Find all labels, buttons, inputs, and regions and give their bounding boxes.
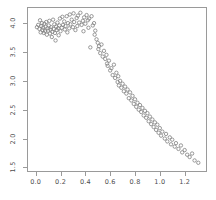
- y-tick-mark: [23, 81, 27, 82]
- x-tick-mark: [135, 172, 136, 176]
- y-tick-mark: [23, 139, 27, 140]
- data-point: [102, 49, 105, 52]
- data-point: [156, 123, 159, 126]
- data-point: [99, 51, 102, 54]
- data-points-layer: [27, 7, 207, 172]
- y-tick-label: 2.0: [9, 132, 17, 146]
- data-point: [130, 99, 133, 102]
- data-point: [174, 141, 177, 144]
- data-point: [107, 59, 110, 62]
- data-point: [51, 18, 54, 21]
- x-tick-label: 1.2: [179, 178, 190, 186]
- data-point: [71, 25, 74, 28]
- data-point: [166, 140, 169, 143]
- data-point: [68, 27, 71, 30]
- data-point: [132, 102, 135, 105]
- data-point: [163, 137, 166, 140]
- x-tick-label: 1.0: [154, 178, 165, 186]
- x-tick-label: 0.0: [30, 178, 41, 186]
- data-point: [57, 34, 60, 37]
- data-point: [66, 31, 69, 34]
- data-point: [177, 147, 180, 150]
- y-tick-label: 3.0: [9, 74, 17, 88]
- y-tick-label: 3.5: [9, 45, 17, 59]
- y-tick-label: 2.5: [9, 103, 17, 117]
- data-point: [89, 46, 92, 49]
- data-point: [81, 19, 84, 22]
- data-point: [74, 28, 77, 31]
- data-point: [131, 94, 134, 97]
- data-point: [59, 30, 62, 33]
- x-tick-label: 0.8: [130, 178, 141, 186]
- y-tick-label: 1.5: [9, 160, 17, 174]
- data-point: [79, 11, 82, 14]
- data-point: [183, 148, 186, 151]
- data-point: [169, 143, 172, 146]
- data-point: [117, 75, 120, 78]
- data-point: [141, 106, 144, 109]
- data-point: [100, 43, 103, 46]
- x-tick-mark: [85, 172, 86, 176]
- data-point: [158, 126, 161, 129]
- data-point: [193, 159, 196, 162]
- data-point: [135, 105, 138, 108]
- data-point: [159, 134, 162, 137]
- x-tick-mark: [36, 172, 37, 176]
- data-point: [188, 155, 191, 158]
- x-tick-mark: [110, 172, 111, 176]
- data-point: [87, 26, 90, 29]
- data-point: [151, 118, 154, 121]
- data-point: [138, 103, 141, 106]
- data-point: [48, 19, 51, 22]
- data-point: [68, 13, 71, 16]
- data-point: [197, 161, 200, 164]
- data-point: [61, 15, 64, 18]
- data-point: [112, 63, 115, 66]
- data-point: [126, 88, 129, 91]
- x-tick-label: 0.6: [105, 178, 116, 186]
- scatter-plot-figure: 0.00.20.40.60.81.01.2 1.52.02.53.03.54.0: [0, 0, 216, 200]
- data-point: [80, 23, 83, 26]
- data-point: [85, 13, 88, 16]
- data-point: [84, 22, 87, 25]
- data-point: [149, 122, 152, 125]
- data-point: [125, 92, 128, 95]
- data-point: [140, 110, 143, 113]
- x-tick-mark: [185, 172, 186, 176]
- data-point: [104, 57, 107, 60]
- data-point: [120, 86, 123, 89]
- data-point: [157, 131, 160, 134]
- data-point: [72, 12, 75, 15]
- data-point: [144, 116, 147, 119]
- y-tick-mark: [23, 52, 27, 53]
- data-point: [90, 15, 93, 18]
- data-point: [128, 91, 131, 94]
- data-point: [93, 33, 96, 36]
- data-point: [96, 41, 99, 44]
- data-point: [121, 82, 124, 85]
- data-point: [63, 28, 66, 31]
- data-point: [54, 39, 57, 42]
- data-point: [106, 64, 109, 67]
- x-tick-label: 0.2: [55, 178, 66, 186]
- data-point: [146, 111, 149, 114]
- y-tick-label: 4.0: [9, 16, 17, 30]
- data-point: [161, 130, 164, 133]
- data-point: [171, 138, 174, 141]
- data-point: [179, 144, 182, 147]
- data-point: [148, 115, 151, 118]
- y-tick-mark: [23, 110, 27, 111]
- data-point: [105, 53, 108, 56]
- x-tick-mark: [160, 172, 161, 176]
- data-point: [82, 30, 85, 33]
- y-tick-mark: [23, 23, 27, 24]
- data-point: [95, 38, 98, 41]
- data-point: [164, 132, 167, 135]
- data-point: [50, 35, 53, 38]
- data-point: [115, 71, 118, 74]
- data-point: [133, 98, 136, 101]
- x-tick-label: 0.4: [80, 178, 91, 186]
- data-point: [72, 20, 75, 23]
- data-point: [173, 145, 176, 148]
- data-point: [190, 152, 193, 155]
